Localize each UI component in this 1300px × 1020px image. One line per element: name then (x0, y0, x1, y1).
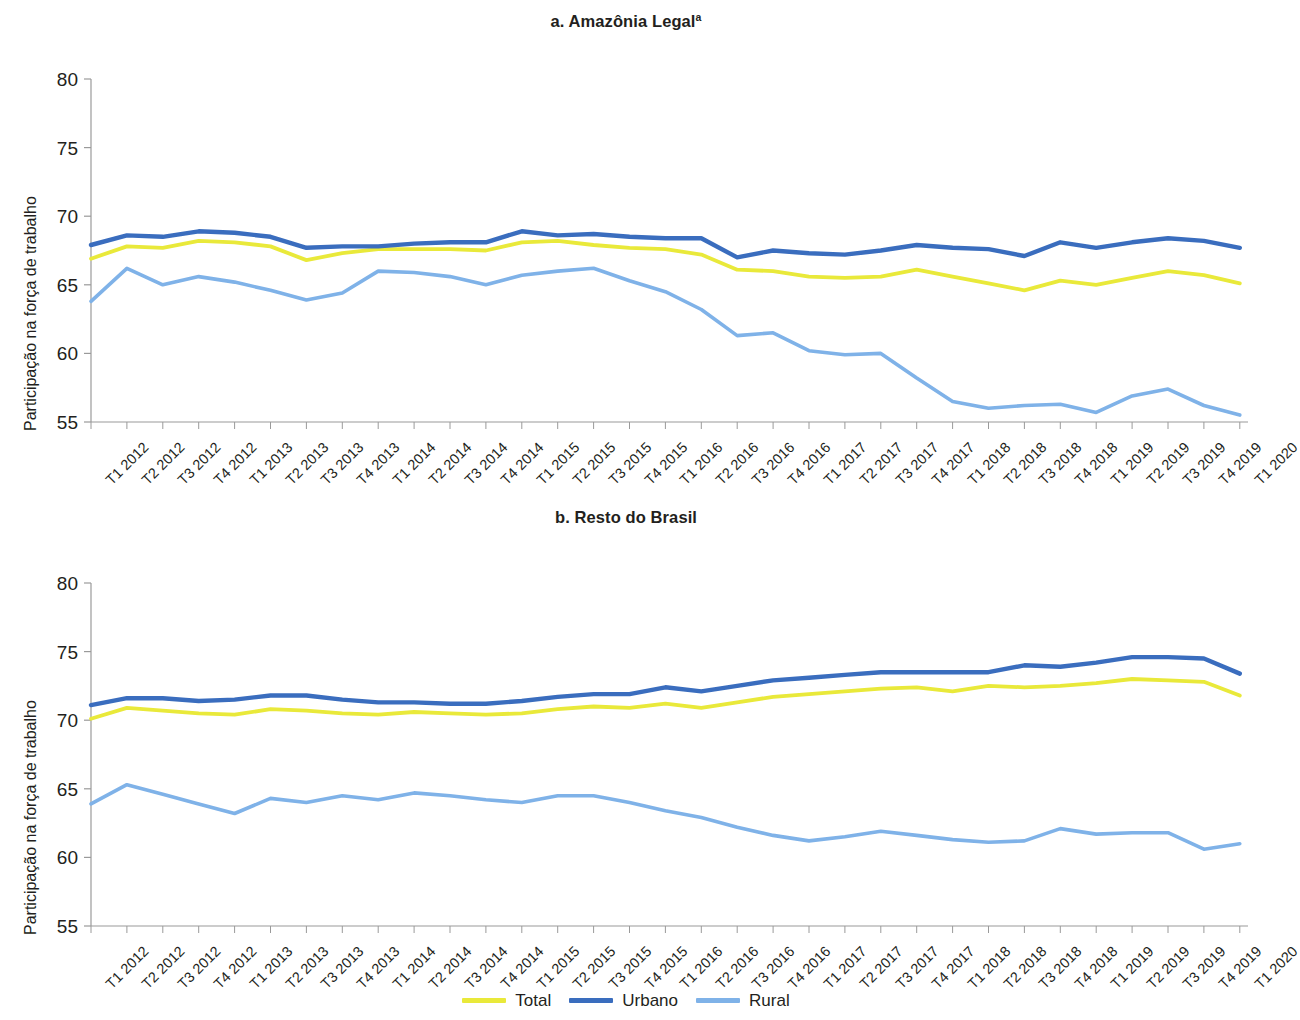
y-tick-label: 65 (57, 779, 78, 800)
series-line-rural (91, 268, 1240, 415)
legend-swatch-rural-icon (696, 998, 740, 1003)
series-line-total (91, 241, 1240, 290)
legend-swatch-urbano-icon (569, 998, 613, 1003)
panel-a-title-text: a. Amazônia Legal (551, 12, 696, 30)
series-line-urbano (91, 657, 1240, 705)
series-line-total (91, 679, 1240, 719)
panel-a-chart-svg: 556065707580 (0, 61, 1252, 431)
panel-a-title-superscript: a (696, 11, 702, 23)
y-tick-label: 70 (57, 710, 78, 731)
legend-label: Total (515, 992, 551, 1009)
y-tick-label: 55 (57, 412, 78, 431)
y-tick-label: 75 (57, 138, 78, 159)
y-tick-label: 80 (57, 573, 78, 594)
panel-a-title: a. Amazônia Legala (0, 0, 1252, 31)
chart-panel-resto-do-brasil: b. Resto do Brasil Participação na força… (0, 500, 1252, 980)
legend-label: Urbano (622, 992, 678, 1009)
y-tick-label: 60 (57, 343, 78, 364)
panel-b-chart-svg: 556065707580 (0, 565, 1252, 935)
legend-swatch-total-icon (462, 998, 506, 1003)
legend-item-urbano: Urbano (569, 992, 678, 1009)
legend-item-total: Total (462, 992, 551, 1009)
chart-panel-amazonia-legal: a. Amazônia Legala Participação na força… (0, 0, 1252, 500)
y-tick-label: 75 (57, 642, 78, 663)
series-line-rural (91, 785, 1240, 850)
chart-legend: TotalUrbanoRural (0, 992, 1252, 1009)
y-tick-label: 55 (57, 916, 78, 935)
legend-label: Rural (749, 992, 790, 1009)
legend-item-rural: Rural (696, 992, 790, 1009)
panel-b-title: b. Resto do Brasil (0, 500, 1252, 527)
y-tick-label: 80 (57, 69, 78, 90)
panel-b-title-text: b. Resto do Brasil (555, 508, 697, 526)
y-tick-label: 65 (57, 275, 78, 296)
y-tick-label: 60 (57, 847, 78, 868)
y-tick-label: 70 (57, 206, 78, 227)
